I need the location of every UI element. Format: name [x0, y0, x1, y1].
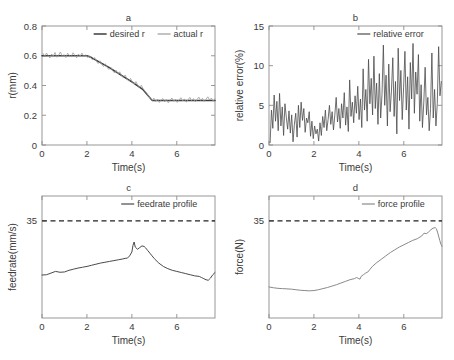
panel-b-plot: 0246051015bTime(s)relative error(%)relat…: [227, 0, 454, 180]
panel-d-xtick: 0: [266, 321, 271, 332]
panel-d-xtick: 4: [356, 321, 361, 332]
panel-a-ytick: 0.8: [24, 21, 37, 32]
panel-b-ytick: 10: [253, 60, 264, 71]
panel-a: 024600.20.40.60.8aTime(s)r(mm)desired ra…: [0, 0, 227, 180]
panel-c-xtick: 4: [129, 321, 134, 332]
panel-a-xtick: 4: [129, 148, 134, 159]
panel-a-xtick: 0: [39, 148, 44, 159]
panel-a-ytick: 0.6: [24, 50, 37, 61]
panel-a-ytick: 0: [32, 140, 37, 151]
legend-label: force profile: [378, 199, 425, 209]
panel-b-xtick: 2: [311, 148, 316, 159]
panel-b-ytick: 5: [259, 100, 264, 111]
panel-c-xtick: 6: [174, 321, 179, 332]
panel-d-xtick: 2: [311, 321, 316, 332]
series-force-profile: [269, 228, 442, 291]
panel-a-xlabel: Time(s): [112, 162, 146, 173]
panel-c-xlabel: Time(s): [112, 335, 146, 346]
legend-item-force-profile: force profile: [362, 199, 425, 209]
panel-d-ytick: 35: [253, 215, 264, 226]
panel-c-ytick: 35: [26, 215, 37, 226]
panel-a-letter: a: [126, 12, 132, 23]
panel-d-plot: 024635dTime(s)force(N)force profile: [227, 180, 454, 360]
legend-label: feedrate profile: [137, 199, 197, 209]
series-actual-r: [43, 52, 215, 103]
panel-c-xtick: 2: [84, 321, 89, 332]
panel-d-xtick: 6: [401, 321, 406, 332]
panel-b-xtick: 4: [356, 148, 361, 159]
legend-label: actual r: [174, 29, 204, 39]
panel-a-ytick: 0.4: [24, 80, 37, 91]
panel-a-ytick: 0.2: [24, 110, 37, 121]
panel-d-ylabel: force(N): [234, 239, 245, 275]
panel-b-ytick: 15: [253, 21, 264, 32]
legend-item-desired-r: desired r: [94, 29, 145, 39]
panel-b: 0246051015bTime(s)relative error(%)relat…: [227, 0, 454, 180]
panel-a-ylabel: r(mm): [7, 72, 18, 99]
panel-b-letter: b: [353, 12, 358, 23]
panel-b-ylabel: relative error(%): [234, 50, 245, 122]
panel-c-letter: c: [126, 182, 131, 193]
panel-a-xtick: 2: [84, 148, 89, 159]
panel-b-ytick: 0: [259, 140, 264, 151]
panel-b-xtick: 0: [266, 148, 271, 159]
panel-c-plot: 024635cTime(s)feedrate(mm/s)feedrate pro…: [0, 180, 227, 360]
panel-c-xtick: 0: [39, 321, 44, 332]
panel-a-xtick: 6: [174, 148, 179, 159]
legend-item-feedrate-profile: feedrate profile: [121, 199, 197, 209]
panel-b-xlabel: Time(s): [339, 162, 373, 173]
legend-label: desired r: [110, 29, 145, 39]
multi-panel-figure: 024600.20.40.60.8aTime(s)r(mm)desired ra…: [0, 0, 454, 360]
legend-label: relative error: [373, 29, 424, 39]
series-desired-r: [42, 56, 215, 101]
panel-a-plot: 024600.20.40.60.8aTime(s)r(mm)desired ra…: [0, 0, 227, 180]
series-relative-error: [270, 43, 441, 142]
panel-d-letter: d: [353, 182, 358, 193]
panel-d-xlabel: Time(s): [339, 335, 373, 346]
legend-item-actual-r: actual r: [158, 29, 204, 39]
series-feedrate-profile: [42, 242, 215, 280]
panel-d: 024635dTime(s)force(N)force profile: [227, 180, 454, 360]
legend-item-relative-error: relative error: [357, 29, 424, 39]
panel-c: 024635cTime(s)feedrate(mm/s)feedrate pro…: [0, 180, 227, 360]
panel-b-xtick: 6: [401, 148, 406, 159]
panel-c-ylabel: feedrate(mm/s): [7, 223, 18, 291]
